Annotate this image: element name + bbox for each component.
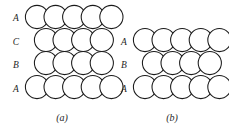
close-packed-sphere-figure: ACBA(a)ABA(b)	[0, 0, 229, 131]
sphere	[90, 28, 113, 51]
sphere-layer-a: A	[120, 75, 229, 98]
sphere	[208, 28, 229, 51]
panel-a: ACBA(a)	[12, 5, 123, 124]
panel-caption: (b)	[166, 112, 178, 124]
layer-label: A	[120, 37, 127, 47]
sphere-layer-a: A	[12, 75, 123, 98]
sphere-layer-a: A	[120, 28, 229, 51]
sphere	[100, 75, 123, 98]
layer-label: A	[120, 84, 127, 94]
layer-label: B	[13, 60, 19, 70]
panels-group: ACBA(a)ABA(b)	[12, 5, 229, 124]
sphere-layer-a: A	[12, 5, 123, 28]
sphere-layer-b: B	[121, 51, 221, 74]
layer-label: A	[12, 13, 19, 23]
sphere	[208, 75, 229, 98]
sphere-layer-b: B	[13, 51, 113, 74]
panel-b: ABA(b)	[120, 28, 229, 124]
sphere	[90, 51, 113, 74]
layer-label: A	[12, 84, 19, 94]
figure-canvas: ACBA(a)ABA(b)	[0, 0, 229, 131]
layer-label: B	[121, 60, 127, 70]
sphere-layer-c: C	[13, 28, 114, 51]
sphere	[198, 51, 221, 74]
sphere	[100, 5, 123, 28]
layer-label: C	[13, 37, 20, 47]
panel-caption: (a)	[56, 112, 68, 124]
